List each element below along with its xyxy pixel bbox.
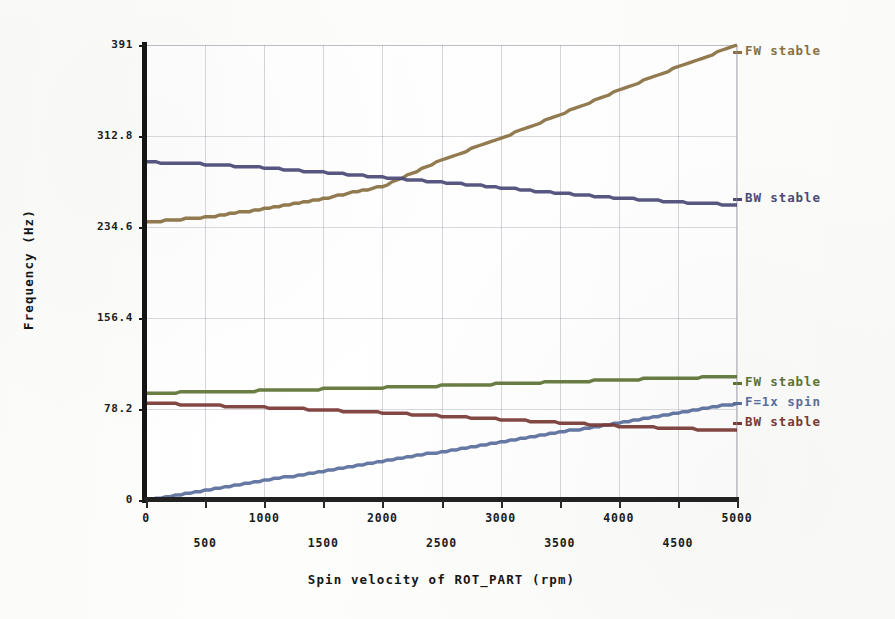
x-axis-tick-label: 1500 xyxy=(308,537,339,549)
y-axis-tick-label: 391 xyxy=(111,39,133,50)
series-label-f-1x-spin: F=1x spin xyxy=(745,395,821,408)
horizontal-gridline xyxy=(146,227,737,228)
x-axis-tick-label: 2000 xyxy=(367,512,398,524)
series-label-connector xyxy=(733,422,742,425)
campbell-diagram-chart: Frequency (Hz) Spin velocity of ROT_PART… xyxy=(0,0,895,619)
x-axis-tick-mark xyxy=(382,500,384,508)
y-axis-line xyxy=(142,42,147,503)
y-axis-tick-mark xyxy=(139,409,146,411)
y-axis-tick-mark xyxy=(139,318,146,320)
x-axis-tick-mark xyxy=(323,500,325,508)
x-axis-tick-mark xyxy=(678,500,680,508)
x-axis-tick-mark xyxy=(737,500,739,508)
series-label-connector xyxy=(733,51,742,54)
y-axis-tick-label: 312.8 xyxy=(97,130,133,141)
plot-frame-top xyxy=(146,45,737,46)
vertical-gridline xyxy=(264,45,265,500)
y-axis-tick-label: 78.2 xyxy=(104,403,133,414)
x-axis-tick-mark xyxy=(442,500,444,508)
series-label-bw-stable: BW stable xyxy=(745,191,821,204)
x-axis-tick-label: 4500 xyxy=(662,537,693,549)
x-axis-tick-label: 1000 xyxy=(249,512,280,524)
x-axis-tick-label: 4000 xyxy=(603,512,634,524)
plot-frame-right xyxy=(736,45,737,501)
horizontal-gridline xyxy=(146,409,737,410)
x-axis-tick-label: 5000 xyxy=(722,512,753,524)
vertical-gridline xyxy=(619,45,620,500)
vertical-gridline xyxy=(442,45,443,500)
x-axis-tick-mark xyxy=(205,500,207,508)
vertical-gridline xyxy=(501,45,502,500)
y-axis-tick-label: 156.4 xyxy=(97,312,133,323)
vertical-gridline xyxy=(678,45,679,500)
x-axis-tick-label: 3500 xyxy=(544,537,575,549)
gridlines xyxy=(146,45,737,500)
horizontal-gridline xyxy=(146,318,737,319)
vertical-gridline xyxy=(382,45,383,500)
x-axis-tick-label: 2500 xyxy=(426,537,457,549)
vertical-gridline xyxy=(737,45,738,500)
x-axis-tick-label: 500 xyxy=(194,537,217,549)
y-axis-tick-mark xyxy=(139,227,146,229)
x-axis-tick-mark xyxy=(560,500,562,508)
plot-area xyxy=(146,45,737,500)
x-axis-tick-label: 3000 xyxy=(485,512,516,524)
x-axis-tick-mark xyxy=(146,500,148,508)
series-label-bw-stable-low: BW stable xyxy=(745,415,821,428)
vertical-gridline xyxy=(205,45,206,500)
y-axis-tick-mark xyxy=(139,45,146,47)
horizontal-gridline xyxy=(146,136,737,137)
series-label-connector xyxy=(733,382,742,385)
vertical-gridline xyxy=(560,45,561,500)
y-axis-tick-label: 0 xyxy=(126,494,133,505)
series-label-connector xyxy=(733,402,742,405)
x-axis-tick-mark xyxy=(264,500,266,508)
series-label-connector xyxy=(733,198,742,201)
vertical-gridline xyxy=(323,45,324,500)
y-axis-tick-mark xyxy=(139,500,146,502)
x-axis-title: Spin velocity of ROT_PART (rpm) xyxy=(146,572,737,587)
y-axis-tick-mark xyxy=(139,136,146,138)
x-axis-tick-mark xyxy=(501,500,503,508)
series-label-fw-stable: FW stable xyxy=(745,44,821,57)
x-axis-tick-label: 0 xyxy=(142,512,150,524)
x-axis-tick-mark xyxy=(619,500,621,508)
y-axis-title: Frequency (Hz) xyxy=(21,180,36,360)
y-axis-tick-label: 234.6 xyxy=(97,221,133,232)
series-label-fw-stable-low: FW stable xyxy=(745,375,821,388)
